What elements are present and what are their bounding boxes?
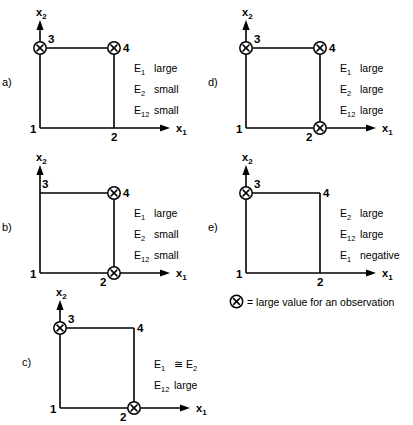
x-axis-label: x1	[176, 267, 187, 282]
x-axis-label: x1	[176, 122, 187, 137]
corner-label-4: 4	[329, 42, 336, 54]
panel-d: d)x1x21234E1largeE2largeE12large	[228, 10, 390, 150]
effect-symbol: E1	[340, 60, 360, 81]
circled-x-marker-corner-2	[128, 402, 140, 414]
corner-label-1: 1	[30, 123, 37, 135]
effect-symbol: E12	[340, 226, 360, 247]
effect-symbol: E1	[154, 356, 174, 377]
corner-label-2: 2	[111, 131, 117, 143]
effects-list: E1largeE2largeE12large	[340, 60, 383, 123]
effect-row: E1≅ E2	[154, 356, 197, 377]
panel-a: a)x1x21234E1largeE2smallE12small	[22, 10, 184, 150]
effect-symbol: E12	[134, 247, 154, 268]
effect-row: E1large	[134, 60, 179, 81]
effect-description: large	[360, 207, 383, 219]
y-axis-label: x2	[242, 6, 253, 21]
corner-label-3: 3	[254, 178, 260, 190]
design-square	[40, 193, 114, 273]
effect-row: E2small	[134, 81, 179, 102]
panel-letter: d)	[208, 76, 218, 88]
circled-x-marker-corner-3	[34, 42, 46, 54]
effect-row: E12small	[134, 102, 179, 123]
effect-row: E12large	[340, 102, 383, 123]
effect-symbol: E2	[340, 205, 360, 226]
corner-label-2: 2	[100, 276, 106, 288]
effects-list: E1largeE2smallE12small	[134, 60, 179, 123]
effect-description: large	[360, 104, 383, 116]
effect-symbol: E12	[340, 102, 360, 123]
effect-description: large	[154, 207, 177, 219]
effect-description: large	[360, 83, 383, 95]
effect-description: small	[154, 249, 179, 261]
effect-symbol: E12	[134, 102, 154, 123]
effect-row: E12small	[134, 247, 179, 268]
panel-letter: e)	[208, 221, 218, 233]
effect-description: ≅ E2	[174, 358, 197, 370]
effect-row: E2small	[134, 226, 179, 247]
corner-label-3: 3	[42, 178, 48, 190]
effect-description: small	[154, 104, 179, 116]
circled-x-marker-corner-3	[240, 42, 252, 54]
x-axis-label: x1	[382, 267, 393, 282]
effect-row: E1large	[340, 60, 383, 81]
corner-label-3: 3	[254, 33, 260, 45]
circled-x-marker-corner-3	[54, 322, 66, 334]
effect-row: E2large	[340, 81, 383, 102]
corner-label-1: 1	[236, 123, 243, 135]
circled-x-icon	[230, 295, 242, 307]
x-axis-label: x1	[196, 402, 207, 417]
corner-label-1: 1	[50, 403, 57, 415]
effect-symbol: E1	[340, 247, 360, 268]
effect-symbol: E2	[134, 81, 154, 102]
design-square	[246, 48, 320, 128]
circled-x-marker-corner-4	[108, 187, 120, 199]
effect-symbol: E12	[154, 377, 174, 398]
panel-letter: b)	[2, 221, 12, 233]
corner-label-4: 4	[123, 187, 130, 199]
effect-description: large	[360, 228, 383, 240]
effect-symbol: E1	[134, 60, 154, 81]
effect-description: large	[174, 379, 197, 391]
corner-label-2: 2	[306, 131, 312, 143]
design-square	[60, 328, 134, 408]
panel-c: c)x1x21234E1≅ E2E12large	[42, 290, 204, 425]
corner-label-3: 3	[48, 33, 54, 45]
design-square	[246, 193, 320, 273]
effect-symbol: E2	[134, 226, 154, 247]
effect-row: E1negative	[340, 247, 400, 268]
circled-x-marker-corner-3	[240, 187, 252, 199]
effect-row: E12large	[154, 377, 197, 398]
effect-description: large	[360, 62, 383, 74]
legend: = large value for an observation	[228, 293, 394, 310]
circled-x-marker-corner-4	[314, 42, 326, 54]
effect-symbol: E2	[340, 81, 360, 102]
corner-label-1: 1	[236, 268, 243, 280]
corner-label-4: 4	[323, 187, 330, 199]
effect-row: E1large	[134, 205, 179, 226]
panel-b: b)x1x21234E1largeE2smallE12small	[22, 155, 184, 295]
y-axis-label: x2	[36, 151, 47, 166]
x-axis-label: x1	[382, 122, 393, 137]
effect-row: E2large	[340, 205, 400, 226]
effect-symbol: E1	[134, 205, 154, 226]
legend-text: = large value for an observation	[247, 296, 394, 308]
circled-x-marker-corner-2	[314, 122, 326, 134]
corner-label-2: 2	[317, 276, 323, 288]
effect-description: small	[154, 83, 179, 95]
effect-description: small	[154, 228, 179, 240]
panel-letter: c)	[22, 356, 31, 368]
design-square	[40, 48, 114, 128]
y-axis-label: x2	[242, 151, 253, 166]
circled-x-marker-corner-2	[108, 267, 120, 279]
effect-description: large	[154, 62, 177, 74]
legend-marker	[228, 293, 245, 310]
effects-list: E1≅ E2E12large	[154, 356, 197, 398]
corner-label-4: 4	[137, 322, 144, 334]
corner-label-2: 2	[120, 411, 126, 423]
effect-row: E12large	[340, 226, 400, 247]
effect-description: negative	[360, 249, 400, 261]
corner-label-1: 1	[30, 268, 37, 280]
panel-e: e)x1x21234E2largeE12largeE1negative	[228, 155, 390, 295]
effects-list: E2largeE12largeE1negative	[340, 205, 400, 268]
circled-x-marker-corner-4	[108, 42, 120, 54]
